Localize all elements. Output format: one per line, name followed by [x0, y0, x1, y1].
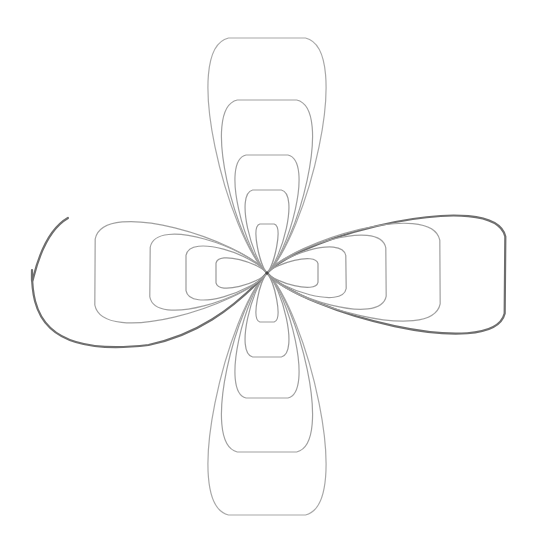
loop-right-2 [267, 223, 440, 321]
loop-down-3 [235, 273, 299, 398]
flower-loop-drawing [0, 0, 535, 549]
loop-group [32, 38, 505, 515]
center-point [265, 271, 268, 274]
loop-left-2 [95, 222, 267, 323]
